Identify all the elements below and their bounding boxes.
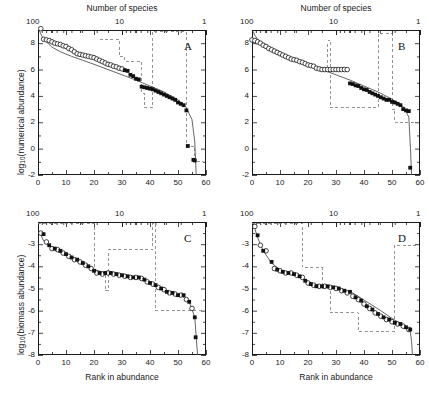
data-point-filled <box>371 308 375 312</box>
xtick-b-20: 20 <box>301 178 315 187</box>
xtick-c-20: 20 <box>87 358 101 367</box>
series-open-circles <box>250 38 350 72</box>
ytick-b-neg2: -2 <box>232 170 249 179</box>
xtick-b-10: 10 <box>273 178 287 187</box>
data-point-filled <box>126 69 130 73</box>
xtick-a-0: 0 <box>31 178 45 187</box>
data-point-filled <box>281 270 285 274</box>
xtick-b-50: 50 <box>385 178 399 187</box>
panel-c <box>38 222 206 355</box>
data-point-filled <box>303 279 307 283</box>
data-point-filled <box>92 269 96 273</box>
series-open-circles <box>39 231 195 311</box>
panel-letter-d: D <box>398 232 406 244</box>
toptick-a-100: 100 <box>26 17 39 26</box>
xtick-b-40: 40 <box>357 178 371 187</box>
data-point-filled <box>320 284 324 288</box>
plot-area-a <box>38 30 206 175</box>
y-axis-title-biomass: log10(biomass abundance) <box>16 255 26 355</box>
panel-a <box>38 30 206 175</box>
data-point-filled <box>131 276 135 280</box>
panel-d <box>252 222 420 355</box>
y-axis-title-numerical-suffix: (numerical abundance) <box>16 69 26 156</box>
data-point-filled <box>408 328 412 332</box>
data-point-filled <box>137 78 141 82</box>
bottom-axis-title-c: Rank in abundance <box>77 372 167 382</box>
data-point-filled <box>376 312 380 316</box>
data-point-filled <box>185 109 189 113</box>
data-point-open <box>39 26 44 31</box>
data-point-filled <box>270 260 274 264</box>
data-point-filled <box>408 166 412 170</box>
data-point-filled <box>120 273 124 277</box>
toptick-c-10: 10 <box>115 209 124 218</box>
data-point-filled <box>309 282 313 286</box>
data-point-filled <box>194 335 198 339</box>
data-point-open <box>253 224 258 229</box>
series-filled-squares <box>256 233 412 331</box>
data-point-filled <box>298 274 302 278</box>
data-point-filled <box>109 271 113 275</box>
panel-letter-b: B <box>398 40 405 52</box>
panel-letter-a: A <box>184 40 192 52</box>
data-point-filled <box>159 287 163 291</box>
data-point-filled <box>187 300 191 304</box>
xtick-c-10: 10 <box>59 358 73 367</box>
data-point-filled <box>53 247 57 251</box>
xtick-a-40: 40 <box>143 178 157 187</box>
data-point-filled <box>98 271 102 275</box>
ytick-d-neg4: -4 <box>232 261 249 270</box>
data-point-filled <box>382 315 386 319</box>
data-point-filled <box>47 243 51 247</box>
xtick-a-30: 30 <box>115 178 129 187</box>
data-point-filled <box>103 271 107 275</box>
data-point-filled <box>326 284 330 288</box>
data-point-filled <box>87 264 91 268</box>
toptick-b-1: 1 <box>416 17 420 26</box>
data-point-filled <box>337 287 341 291</box>
panel-letter-c: C <box>184 232 191 244</box>
series-open-circles <box>39 26 125 71</box>
ytick-d-neg8: -8 <box>232 350 249 359</box>
top-axis-title-a: Number of species <box>82 3 162 13</box>
plot-area-c <box>38 222 206 355</box>
xtick-b-60: 60 <box>413 178 427 187</box>
xtick-a-20: 20 <box>87 178 101 187</box>
data-point-filled <box>154 283 158 287</box>
toptick-b-100: 100 <box>240 17 253 26</box>
ytick-b-0: 0 <box>232 144 249 153</box>
toptick-b-10: 10 <box>329 17 338 26</box>
ytick-b-4: 4 <box>232 91 249 100</box>
y-axis-title-numerical-subscript: 10 <box>19 156 26 163</box>
data-point-filled <box>171 291 175 295</box>
xtick-c-50: 50 <box>171 358 185 367</box>
xtick-d-60: 60 <box>413 358 427 367</box>
data-point-filled <box>143 278 147 282</box>
top-axis-title-b: Number of species <box>296 3 376 13</box>
data-point-filled <box>387 318 391 322</box>
data-point-filled <box>182 293 186 297</box>
xtick-c-60: 60 <box>199 358 213 367</box>
data-point-filled <box>193 159 197 163</box>
series-filled-squares <box>123 68 197 162</box>
data-point-filled <box>64 252 68 256</box>
xtick-c-0: 0 <box>31 358 45 367</box>
data-point-open <box>190 306 195 311</box>
y-axis-title-biomass-prefix: log <box>16 344 26 355</box>
data-point-filled <box>275 268 279 272</box>
ytick-d-neg6: -6 <box>232 306 249 315</box>
ytick-c-neg3: -3 <box>18 239 35 248</box>
plot-area-b <box>252 30 420 175</box>
xtick-b-0: 0 <box>245 178 259 187</box>
data-point-filled <box>393 321 397 325</box>
xtick-d-50: 50 <box>385 358 399 367</box>
species-step-curve <box>252 223 417 332</box>
ytick-a-8: 8 <box>18 38 35 47</box>
data-point-filled <box>42 232 46 236</box>
data-point-filled <box>404 325 408 329</box>
figure-root: A0102030405060-202468100101B010203040506… <box>0 0 429 395</box>
data-point-filled <box>331 285 335 289</box>
toptick-d-100: 100 <box>240 209 253 218</box>
y-axis-title-numerical: log10(numerical abundance) <box>16 69 26 175</box>
data-point-open <box>345 67 350 72</box>
